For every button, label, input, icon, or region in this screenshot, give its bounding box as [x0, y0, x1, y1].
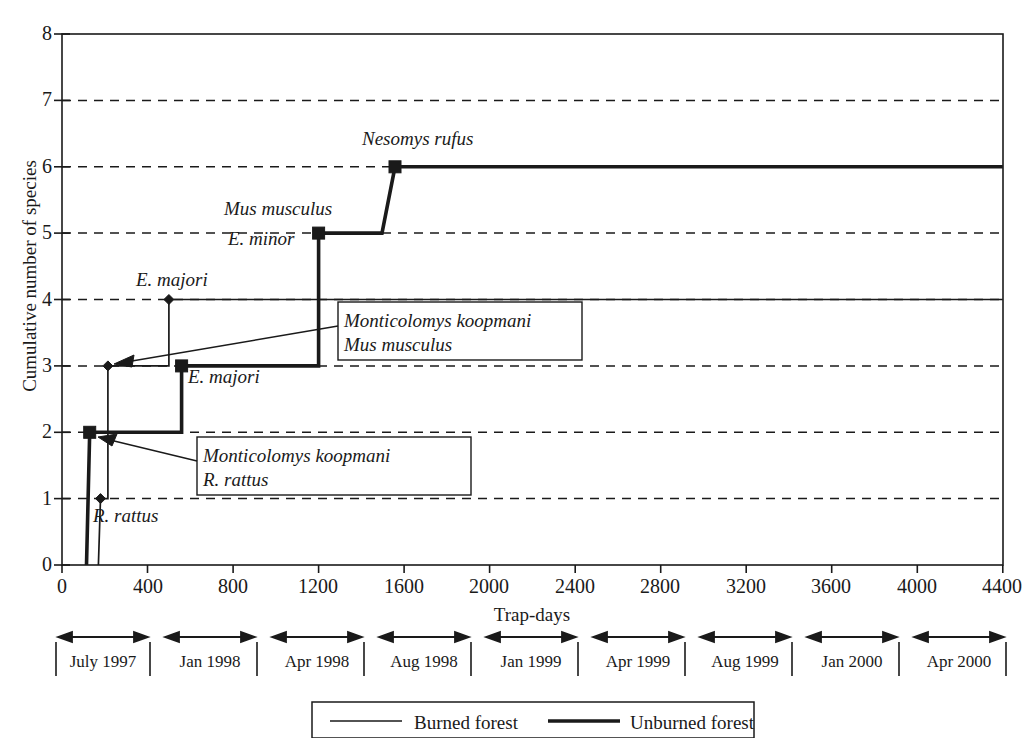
timeline-arrow-jan-1998	[165, 632, 255, 642]
timeline-separators	[56, 642, 1006, 676]
x-axis-ticks	[62, 565, 1003, 573]
timeline-arrow-apr-1999	[593, 632, 683, 642]
legend-box	[312, 702, 754, 738]
timeline-arrow-july-1997	[58, 632, 148, 642]
callout-upper-leader	[126, 326, 338, 362]
timeline-arrow-jan-2000	[807, 632, 897, 642]
timeline-axis	[56, 632, 1006, 676]
timeline-arrow-aug-1999	[700, 632, 790, 642]
callout-upper-box	[338, 302, 582, 360]
timeline-arrow-aug-1998	[379, 632, 469, 642]
callout-lower-box	[197, 437, 471, 495]
timeline-arrow-apr-2000	[914, 632, 1004, 642]
timeline-arrow-apr-1998	[272, 632, 362, 642]
chart-canvas: Cumulative number of species 8 7 6 5 4 3…	[0, 0, 1023, 738]
timeline-arrow-jan-1999	[486, 632, 576, 642]
callout-lower-leader	[110, 440, 197, 461]
chart-vector-layer	[0, 0, 1023, 738]
